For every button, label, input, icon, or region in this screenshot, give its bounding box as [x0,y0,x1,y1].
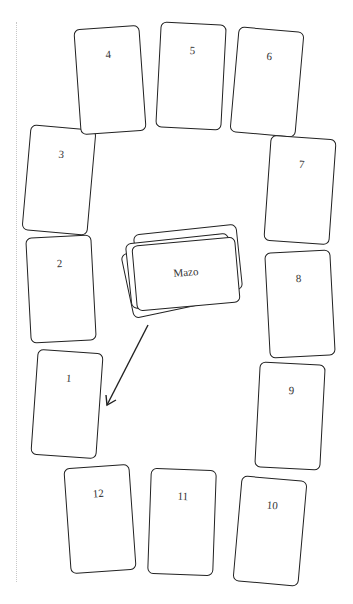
arrow-shaft [107,325,148,405]
deal-arrow [0,0,353,604]
